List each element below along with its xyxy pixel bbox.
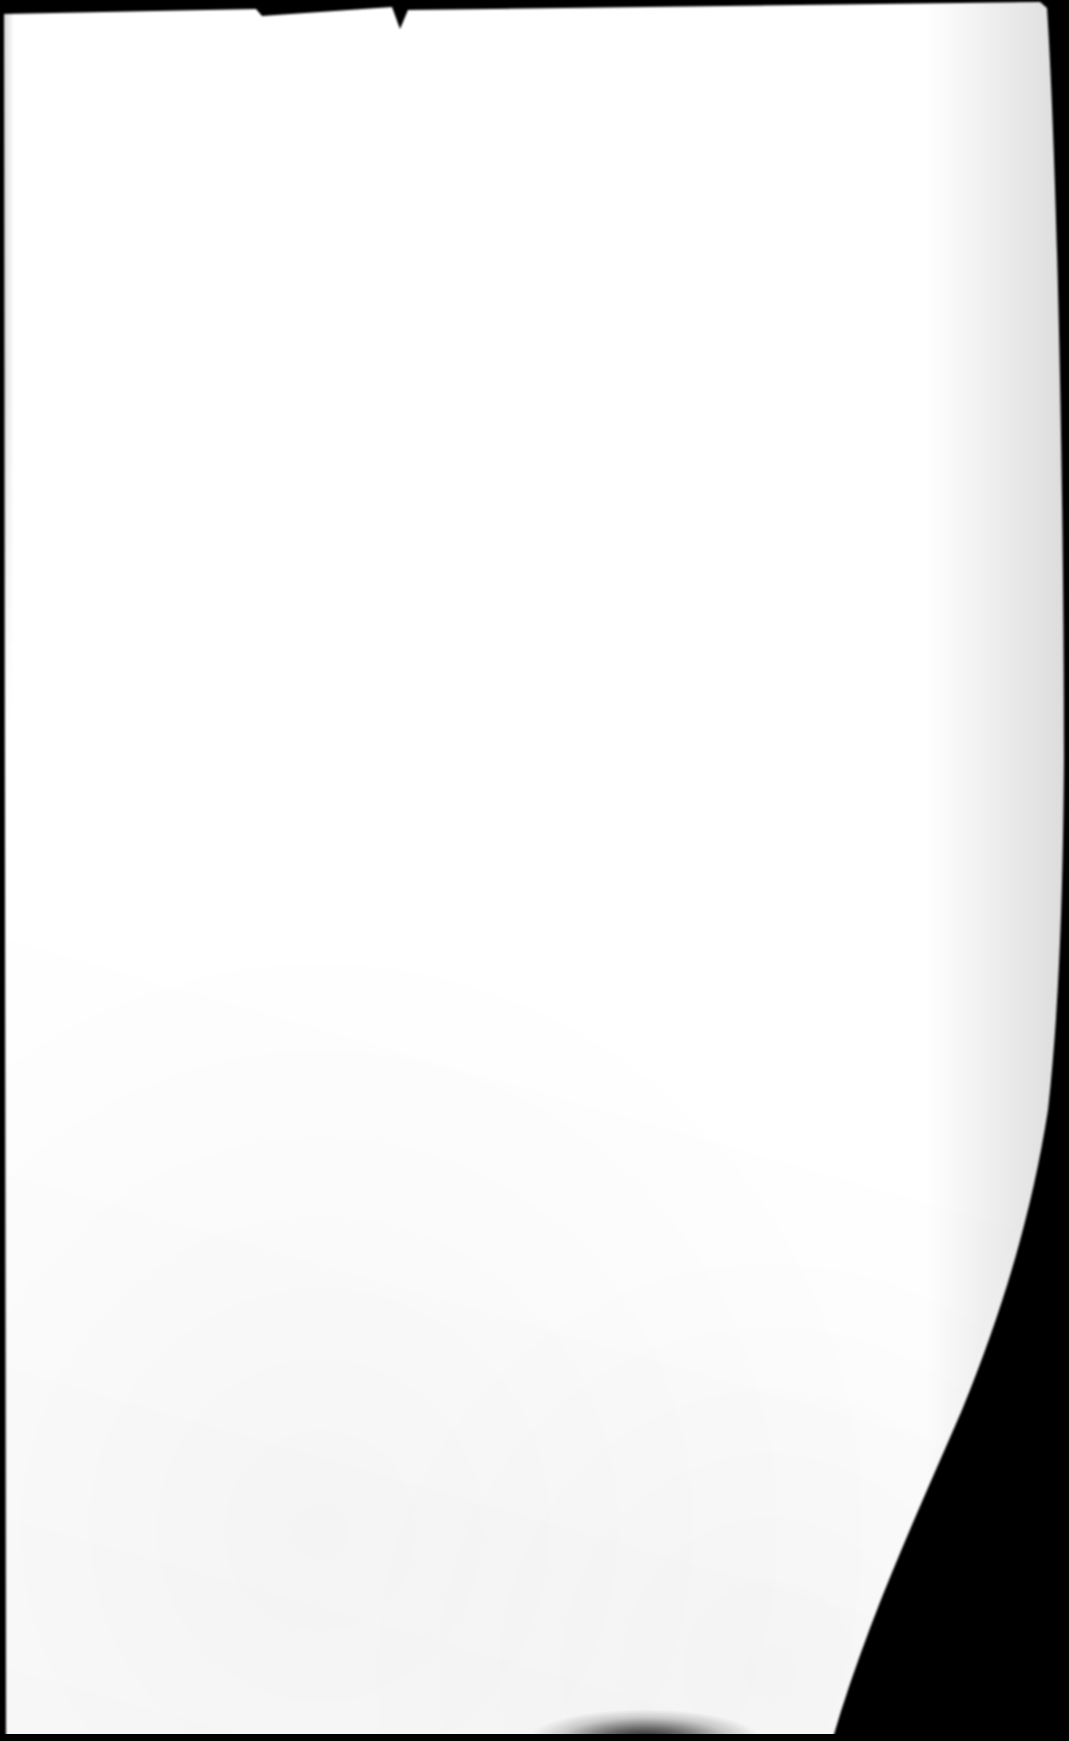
bottom-black-band xyxy=(0,1734,860,1741)
scan-canvas xyxy=(0,0,1069,1741)
page-polygon xyxy=(4,2,1064,1741)
paper-sheet xyxy=(0,0,1069,1741)
